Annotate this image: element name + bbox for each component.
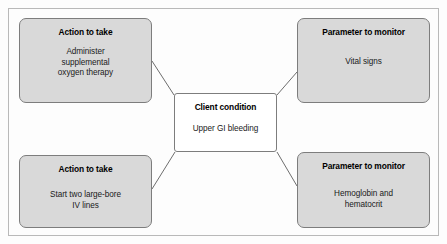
node-title: Client condition [195,102,257,113]
node-body: Start two large-boreIV lines [50,190,121,211]
node-parameter-to-monitor-hemoglobin[interactable]: Parameter to monitor Hemoglobin andhemat… [297,152,430,228]
node-action-to-take-iv-lines[interactable]: Action to take Start two large-boreIV li… [19,155,152,228]
node-title: Parameter to monitor [322,161,405,172]
node-client-condition[interactable]: Client condition Upper GI bleeding [174,93,277,152]
node-body: Administersupplementaloxygen therapy [58,47,113,79]
connector-center-to-action-iv [152,152,175,189]
node-parameter-to-monitor-vital-signs[interactable]: Parameter to monitor Vital signs [297,18,430,103]
connector-center-to-param-vitals [277,72,297,95]
concept-map-diagram: Action to take Administersupplementaloxy… [0,0,447,244]
node-title: Action to take [59,164,113,175]
node-title: Action to take [59,27,113,38]
node-body: Upper GI bleeding [193,124,259,135]
connector-center-to-param-hgb [277,152,297,186]
node-title: Parameter to monitor [322,27,405,38]
node-body: Hemoglobin andhematocrit [334,189,393,210]
node-body: Vital signs [345,57,382,68]
node-action-to-take-oxygen[interactable]: Action to take Administersupplementaloxy… [19,18,152,103]
connector-center-to-action-oxygen [152,61,174,95]
